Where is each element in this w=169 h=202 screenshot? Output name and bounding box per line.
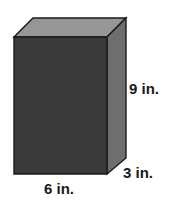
prism-front-face	[14, 37, 107, 174]
depth-dimension-label: 3 in.	[123, 165, 153, 181]
prism-right-face	[107, 18, 126, 174]
height-dimension-label: 9 in.	[129, 81, 159, 97]
width-dimension-label: 6 in.	[44, 181, 74, 197]
prism-figure: 9 in. 3 in. 6 in.	[0, 0, 169, 202]
